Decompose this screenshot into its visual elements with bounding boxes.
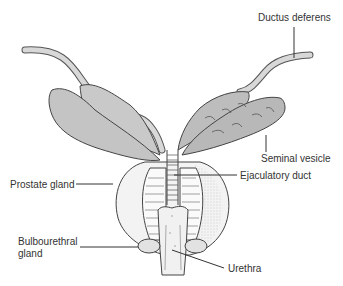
urethra: [158, 206, 188, 275]
right-ductus-deferens: [240, 55, 310, 92]
label-ejaculatory-duct: Ejaculatory duct: [240, 170, 311, 181]
label-ductus-deferens: Ductus deferens: [258, 12, 331, 23]
left-seminal-vesicle: [49, 85, 160, 161]
label-bulbourethral-line1: Bulbourethral: [18, 236, 77, 247]
right-seminal-vesicle: [178, 92, 285, 155]
label-prostate-gland: Prostate gland: [10, 179, 75, 190]
label-urethra: Urethra: [228, 263, 261, 274]
label-seminal-vesicle: Seminal vesicle: [261, 153, 330, 164]
label-bulbourethral-line2: gland: [18, 248, 42, 259]
